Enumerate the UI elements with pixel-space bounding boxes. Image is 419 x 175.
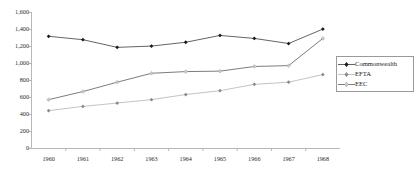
legend-label: Commonwealth [355,61,397,68]
legend-label: EFTA [355,71,371,78]
series-efta [47,73,325,113]
series-commonwealth [47,27,325,49]
data-point-marker [321,27,325,31]
data-point-marker [81,38,85,42]
legend: Commonwealth EFTA EEC [336,56,414,92]
series-eec [47,37,325,102]
line-with-diamond-marker-icon [338,80,355,89]
data-point-marker [218,34,222,38]
data-point-marker [47,98,51,102]
data-point-marker [184,70,188,74]
data-series-group [47,27,325,112]
data-point-marker [252,65,256,69]
data-point-marker [115,45,119,49]
data-point-marker [115,101,119,105]
x-axis-ticks [66,149,306,152]
data-point-marker [150,98,154,102]
data-point-marker [47,34,51,38]
data-point-marker [252,37,256,41]
line-with-diamond-marker-icon [338,70,355,79]
line-with-diamond-marker-icon [338,60,355,69]
data-point-marker [150,71,154,75]
series-line [49,29,323,47]
data-point-marker [150,44,154,48]
data-point-marker [115,80,119,84]
data-point-marker [321,73,325,77]
series-line [49,75,323,111]
legend-item-eec[interactable]: EEC [338,79,411,89]
legend-item-efta[interactable]: EFTA [338,69,411,79]
data-point-marker [184,93,188,97]
data-point-marker [287,80,291,84]
data-point-marker [218,89,222,93]
legend-item-commonwealth[interactable]: Commonwealth [338,59,411,69]
data-point-marker [47,109,51,113]
legend-label: EEC [355,81,367,88]
data-point-marker [252,82,256,86]
data-point-marker [81,105,85,109]
line-chart: 02004006008001,0001,2001,4001,600 196019… [0,0,419,175]
data-point-marker [287,42,291,46]
data-point-marker [184,40,188,44]
y-axis-ticks [29,13,32,149]
data-point-marker [218,69,222,73]
series-line [49,38,323,99]
data-point-marker [81,90,85,94]
